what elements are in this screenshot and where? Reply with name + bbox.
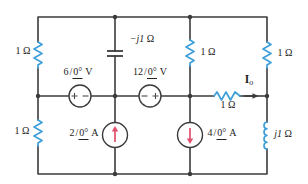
node-dot: [36, 94, 40, 98]
circuit-schematic: [0, 0, 308, 184]
resistor-series-label: 1 Ω: [221, 100, 236, 110]
angle-value: 0°: [79, 127, 89, 140]
output-current-label: Io: [245, 74, 253, 87]
capacitor-label: −j1Ω: [130, 34, 154, 44]
magnitude: 6: [63, 66, 68, 77]
resistance-value: 1 Ω: [201, 46, 216, 57]
reactance-value: −j1: [130, 33, 145, 44]
angle-value: 0°: [73, 66, 83, 79]
current-source-2a: [103, 123, 128, 148]
current-source-4a: [178, 123, 203, 148]
unit: Ω: [284, 128, 291, 139]
unit: V: [160, 66, 167, 77]
node-dot: [265, 94, 269, 98]
resistor-bottom-left: [34, 120, 42, 146]
current-source-2a-label: 2/0°A: [69, 128, 98, 138]
magnitude: 4: [207, 127, 212, 138]
resistor-top-left-label: 1 Ω: [16, 46, 31, 56]
reactance-value: j1: [274, 128, 282, 139]
current-subscript: o: [249, 78, 253, 87]
node-dot: [113, 15, 117, 19]
resistor-top-right: [263, 42, 271, 68]
resistor-bottom-left-label: 1 Ω: [15, 126, 30, 136]
unit: A: [229, 127, 236, 138]
magnitude: 2: [69, 127, 74, 138]
current-source-4a-label: 4/0°A: [207, 128, 236, 138]
inductor-label: j1Ω: [274, 129, 292, 139]
resistor-middle-branch-label: 1 Ω: [201, 47, 216, 57]
angle-value: 0°: [147, 66, 157, 79]
node-dot: [188, 15, 192, 19]
voltage-source-12v: [139, 85, 161, 107]
resistor-middle-branch: [186, 40, 194, 66]
node-dot: [113, 94, 117, 98]
unit: Ω: [147, 33, 154, 44]
unit: A: [91, 127, 98, 138]
capacitor-symbol: [107, 51, 123, 56]
angle-value: 0°: [217, 127, 227, 140]
circuit-diagram: 1 Ω 1 Ω −j1Ω 6/0°V 12/0°V 1 Ω 1 Ω 2/0°A …: [0, 0, 308, 184]
resistance-value: 1 Ω: [15, 125, 30, 136]
resistance-value: 1 Ω: [16, 45, 31, 56]
resistance-value: 1 Ω: [278, 47, 293, 58]
voltage-source-6v-label: 6/0°V: [63, 67, 92, 77]
resistor-top-right-label: 1 Ω: [278, 48, 293, 58]
magnitude: 12: [133, 66, 143, 77]
voltage-source-12v-label: 12/0°V: [133, 67, 167, 77]
node-dot: [188, 172, 192, 176]
io-arrowhead: [253, 93, 259, 99]
voltage-source-6v: [69, 85, 91, 107]
resistance-value: 1 Ω: [221, 99, 236, 110]
output-current-arrow: [244, 93, 259, 99]
wire-bottom: [38, 146, 267, 174]
node-dot: [113, 172, 117, 176]
inductor-symbol: [264, 122, 267, 149]
unit: V: [85, 66, 92, 77]
resistor-top-left: [34, 42, 42, 68]
node-dot: [188, 94, 192, 98]
